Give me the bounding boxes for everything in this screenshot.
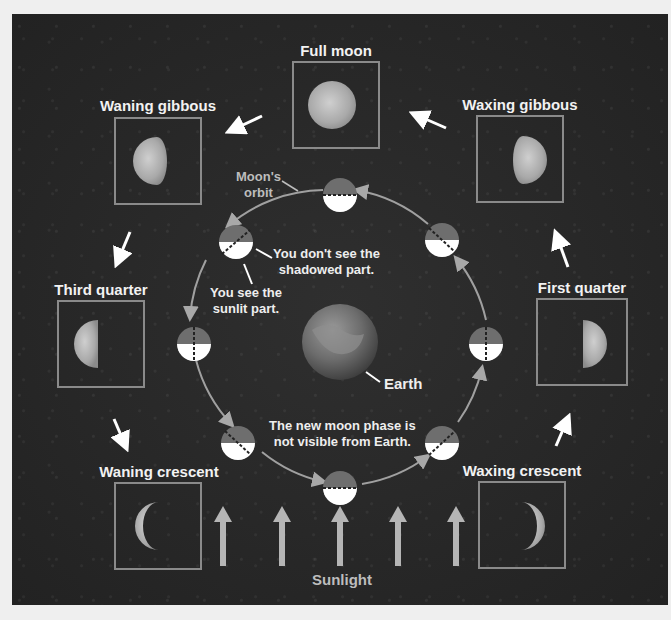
phase-frame-waxing-crescent bbox=[478, 481, 566, 569]
phase-frame-waxing-gibbous bbox=[476, 115, 564, 203]
label-earth: Earth bbox=[384, 376, 422, 392]
orbit-moon-top bbox=[323, 178, 357, 212]
label-waning-crescent: Waning crescent bbox=[99, 463, 218, 480]
phase-frame-third-quarter bbox=[57, 300, 145, 388]
label-full-moon: Full moon bbox=[300, 42, 372, 59]
label-moons-orbit: Moon's orbit bbox=[236, 169, 281, 201]
orbit-moon-upper-right bbox=[425, 223, 459, 257]
label-sunlit-part: You see the sunlit part. bbox=[210, 285, 282, 317]
label-waxing-gibbous: Waxing gibbous bbox=[462, 96, 577, 113]
orbit-moon-right bbox=[469, 327, 503, 361]
orbit-moon-left bbox=[177, 327, 211, 361]
label-sunlight: Sunlight bbox=[312, 572, 372, 588]
sunlight-arrows bbox=[214, 506, 465, 566]
orbit-moon-lower-left bbox=[221, 426, 255, 460]
phase-frame-waning-crescent bbox=[114, 482, 202, 570]
label-shadowed-part: You don't see the shadowed part. bbox=[273, 246, 380, 278]
phase-frame-waning-gibbous bbox=[114, 117, 202, 205]
label-third-quarter: Third quarter bbox=[54, 281, 147, 298]
phase-frame-first-quarter bbox=[536, 298, 628, 386]
label-first-quarter: First quarter bbox=[538, 279, 626, 296]
label-new-moon-note: The new moon phase is not visible from E… bbox=[269, 418, 416, 450]
orbit-moon-lower-right bbox=[425, 426, 459, 460]
label-waxing-crescent: Waxing crescent bbox=[463, 462, 582, 479]
orbit-moon-upper-left bbox=[219, 225, 253, 259]
phase-frame-full bbox=[292, 61, 380, 149]
label-waning-gibbous: Waning gibbous bbox=[100, 97, 216, 114]
orbit-moon-bottom-new bbox=[323, 471, 357, 505]
